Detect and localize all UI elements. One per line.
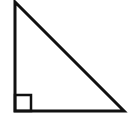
right-angle-marker [15, 95, 31, 111]
right-triangle-diagram [0, 0, 133, 118]
